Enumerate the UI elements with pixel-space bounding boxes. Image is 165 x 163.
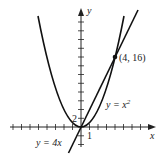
intersection-label: (4, 16) <box>119 52 146 64</box>
y-axis-label: y <box>86 5 92 16</box>
intersection-point <box>113 55 118 60</box>
line-label: y = 4x <box>35 137 62 148</box>
x-tick-label: 1 <box>87 130 92 141</box>
y-axis-arrow-icon <box>78 8 84 16</box>
parabola-label: y = x2 <box>105 98 131 110</box>
line-curve <box>69 10 139 153</box>
y-tick-label: 2 <box>72 113 77 124</box>
graph: y x 1 2 (4, 16) y = x2 y = 4x <box>0 0 165 163</box>
x-axis-label: x <box>149 130 155 141</box>
